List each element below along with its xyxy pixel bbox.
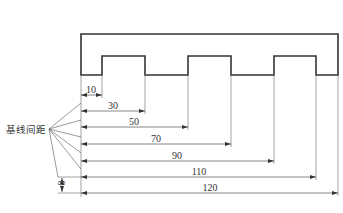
dim-label-50: 50: [129, 116, 139, 127]
baseline-spacing-label: 基线间距: [6, 124, 46, 135]
spacing-label: 8: [56, 181, 67, 186]
leader-lines: [49, 103, 81, 177]
dim-label-70: 70: [151, 133, 161, 144]
baseline-dimension-diagram: 10 30 50 70 90 110 120 8 基线间距: [0, 0, 343, 213]
dim-label-30: 30: [108, 100, 118, 111]
dim-label-110: 110: [192, 166, 207, 177]
dim-label-120: 120: [203, 182, 218, 193]
part-outline: [81, 34, 338, 75]
dim-label-90: 90: [172, 150, 182, 161]
dim-label-10: 10: [86, 84, 96, 95]
dimension-labels: 10 30 50 70 90 110 120: [86, 84, 218, 193]
dimension-lines: [81, 95, 338, 193]
